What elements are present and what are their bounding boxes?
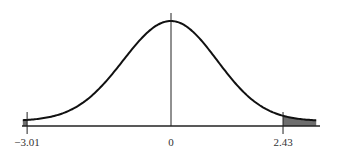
density-curve — [23, 21, 316, 120]
normal-curve-chart: −3.01 0 2.43 — [0, 0, 337, 160]
tick-label-left: −3.01 — [14, 136, 39, 148]
shaded-tails — [23, 116, 316, 126]
tick-label-zero: 0 — [168, 136, 174, 148]
tick-label-right: 2.43 — [273, 136, 293, 148]
tick-marks — [27, 112, 283, 134]
